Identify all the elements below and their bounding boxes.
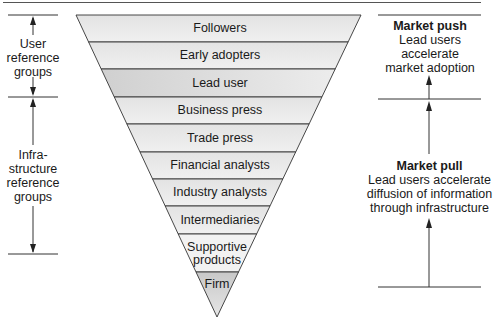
label-line: Lead users <box>370 33 490 47</box>
arrow-down-icon <box>30 87 36 96</box>
label-line: reference <box>0 176 66 190</box>
row-label-firm: Firm <box>192 274 242 294</box>
market-pull-title: Market pull <box>366 159 493 173</box>
arrow-up-icon <box>426 101 432 111</box>
label-line: Lead users accelerate <box>366 173 493 187</box>
market-push-title: Market push <box>370 19 490 33</box>
arrow-up-icon <box>426 218 432 228</box>
label-line: groups <box>0 190 66 204</box>
market-pull-note: Market pull Lead users accelerate diffus… <box>366 159 493 215</box>
label-line: accelerate <box>370 47 490 61</box>
user-reference-groups-label: User reference groups <box>0 37 66 79</box>
row-label-trade-press: Trade press <box>120 124 320 152</box>
label-line: Infra- <box>0 148 66 162</box>
row-label-industry-analysts: Industry analysts <box>120 179 320 206</box>
label-line: structure <box>0 162 66 176</box>
arrow-up-icon <box>426 75 432 85</box>
row-label-supportive-products: Supportive products <box>172 236 262 272</box>
row-label-followers: Followers <box>120 15 320 42</box>
row-label-financial-analysts: Financial analysts <box>120 152 320 179</box>
label-line: through infrastructure <box>366 201 493 215</box>
arrow-down-icon <box>30 244 36 253</box>
row-label-business-press: Business press <box>120 97 320 124</box>
infrastructure-reference-groups-label: Infra- structure reference groups <box>0 148 66 204</box>
label-line: market adoption <box>370 61 490 75</box>
label-line: groups <box>0 65 66 79</box>
row-label-early-adopters: Early adopters <box>120 42 320 69</box>
row-label-lead-user: Lead user <box>120 69 320 97</box>
row-label-intermediaries: Intermediaries <box>120 206 320 234</box>
label-line: diffusion of information <box>366 187 493 201</box>
label-line: reference <box>0 51 66 65</box>
label-line: User <box>0 37 66 51</box>
market-push-note: Market push Lead users accelerate market… <box>370 19 490 75</box>
arrow-up-icon <box>30 16 36 25</box>
arrow-up-icon <box>30 98 36 107</box>
